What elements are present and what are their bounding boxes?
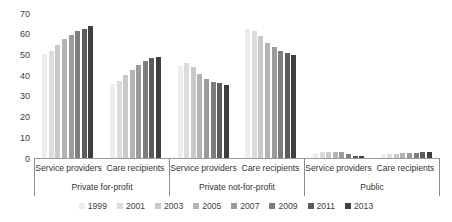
- legend-item-2013[interactable]: 2013: [345, 202, 373, 211]
- bar: [278, 51, 283, 159]
- bar: [258, 36, 263, 159]
- bar: [136, 65, 141, 159]
- bar: [143, 61, 148, 159]
- bar: [110, 84, 115, 159]
- y-tick-label-40: 40: [20, 72, 30, 81]
- legend-label: 1999: [88, 202, 107, 211]
- bar: [130, 70, 135, 159]
- bar-cluster: [305, 14, 373, 159]
- bar: [184, 63, 189, 159]
- legend-swatch-icon: [345, 203, 351, 209]
- y-axis: 706050403020100: [0, 0, 34, 222]
- bar-series-wrapper: [313, 14, 364, 159]
- group-label-public: Public: [305, 177, 439, 196]
- bar: [75, 31, 80, 159]
- bar: [49, 51, 54, 159]
- bar: [117, 81, 122, 159]
- bar-series-wrapper: [245, 14, 296, 159]
- y-tick-label-60: 60: [20, 30, 30, 39]
- legend-label: 2001: [126, 202, 145, 211]
- legend-item-2005[interactable]: 2005: [193, 202, 221, 211]
- y-tick-label-20: 20: [20, 113, 30, 122]
- plot-area: [34, 14, 440, 159]
- legend-item-1999[interactable]: 1999: [79, 202, 107, 211]
- bar: [252, 31, 257, 159]
- bar: [123, 75, 128, 160]
- bar: [265, 43, 270, 159]
- bar: [191, 67, 196, 159]
- legend-label: 2009: [278, 202, 297, 211]
- bar: [272, 47, 277, 159]
- group-label-private-for-profit: Private for-profit: [35, 177, 170, 196]
- bar-series-wrapper: [178, 14, 229, 159]
- bar-series-wrapper: [42, 14, 93, 159]
- bar-cluster: [237, 14, 305, 159]
- bar: [291, 55, 296, 159]
- bar: [42, 54, 47, 159]
- bar: [245, 29, 250, 160]
- bar-series-wrapper: [110, 14, 161, 159]
- legend-swatch-icon: [193, 203, 199, 209]
- bar: [217, 83, 222, 159]
- y-tick-label-0: 0: [25, 155, 30, 164]
- category-label-care-recipients: Care recipients: [372, 158, 439, 177]
- legend-item-2011[interactable]: 2011: [308, 202, 335, 211]
- legend-label: 2013: [354, 202, 373, 211]
- y-tick-label-30: 30: [20, 92, 30, 101]
- bar: [62, 39, 67, 159]
- bar-series-wrapper: [381, 14, 432, 159]
- y-tick-label-10: 10: [20, 134, 30, 143]
- legend-item-2009[interactable]: 2009: [269, 202, 297, 211]
- legend-swatch-icon: [269, 203, 275, 209]
- category-label-service-providers: Service providers: [35, 158, 102, 177]
- y-tick-label-70: 70: [20, 10, 30, 19]
- chart-legend: 19992001200320052007200920112013: [0, 199, 452, 213]
- bar-cluster: [34, 14, 102, 159]
- legend-swatch-icon: [155, 203, 161, 209]
- bar: [82, 29, 87, 160]
- bar: [204, 79, 209, 159]
- bar: [178, 66, 183, 159]
- legend-swatch-icon: [231, 203, 237, 209]
- legend-label: 2007: [240, 202, 259, 211]
- legend-label: 2011: [317, 202, 335, 211]
- legend-item-2001[interactable]: 2001: [117, 202, 145, 211]
- bar: [156, 57, 161, 159]
- bar: [224, 85, 229, 159]
- legend-swatch-icon: [117, 203, 123, 209]
- legend-swatch-icon: [79, 203, 85, 209]
- bar: [149, 58, 154, 160]
- legend-swatch-icon: [308, 203, 314, 209]
- bar: [88, 26, 93, 159]
- y-tick-label-50: 50: [20, 51, 30, 60]
- category-label-care-recipients: Care recipients: [102, 158, 170, 177]
- bar-chart: 706050403020100 Service providersCare re…: [0, 0, 452, 222]
- bar: [55, 45, 60, 159]
- bar: [69, 35, 74, 159]
- legend-item-2003[interactable]: 2003: [155, 202, 183, 211]
- bar: [211, 82, 216, 159]
- legend-item-2007[interactable]: 2007: [231, 202, 259, 211]
- legend-label: 2003: [164, 202, 183, 211]
- group-label-band: Private for-profitPrivate not-for-profit…: [34, 177, 440, 196]
- legend-label: 2005: [202, 202, 221, 211]
- category-label-service-providers: Service providers: [170, 158, 237, 177]
- category-label-band: Service providersCare recipientsService …: [34, 158, 440, 177]
- bar-cluster: [372, 14, 440, 159]
- bar: [197, 74, 202, 159]
- bar-cluster: [169, 14, 237, 159]
- group-label-private-not-for-profit: Private not-for-profit: [170, 177, 305, 196]
- bar-cluster: [102, 14, 170, 159]
- category-label-service-providers: Service providers: [305, 158, 372, 177]
- category-label-care-recipients: Care recipients: [237, 158, 305, 177]
- bar: [285, 53, 290, 159]
